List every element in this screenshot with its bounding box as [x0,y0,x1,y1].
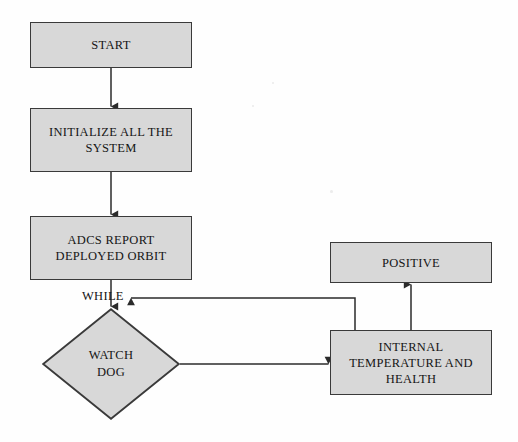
node-adcs-report-label: ADCS REPORT DEPLOYED ORBIT [56,232,167,264]
node-positive-label: POSITIVE [382,255,440,271]
flowchart-canvas: START INITIALIZE ALL THE SYSTEM ADCS REP… [0,0,518,442]
node-positive[interactable]: POSITIVE [330,242,492,283]
node-internal-temperature-health-label: INTERNAL TEMPERATURE AND HEALTH [349,339,473,387]
node-initialize[interactable]: INITIALIZE ALL THE SYSTEM [30,108,192,172]
node-watchdog[interactable]: WATCH DOG [42,308,180,420]
node-start[interactable]: START [30,22,192,68]
node-adcs-report[interactable]: ADCS REPORT DEPLOYED ORBIT [30,216,192,280]
node-start-label: START [91,37,130,53]
node-internal-temperature-health[interactable]: INTERNAL TEMPERATURE AND HEALTH [330,330,492,395]
scan-speck [252,105,254,107]
node-watchdog-label: WATCH DOG [89,347,134,381]
scan-speck [330,190,333,193]
node-initialize-label: INITIALIZE ALL THE SYSTEM [49,124,173,156]
scan-speck [272,82,274,84]
edge-label-while: WHILE [82,289,124,304]
